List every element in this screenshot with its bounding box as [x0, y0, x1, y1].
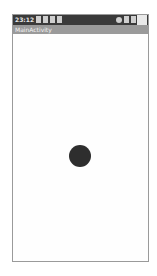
system-icons — [116, 16, 136, 24]
menu-grid-icon[interactable] — [137, 15, 147, 25]
app-title: MainActivity — [15, 26, 52, 33]
notification-icons — [36, 16, 62, 24]
sd-card-icon — [36, 16, 41, 23]
status-bar: 23:12 — [13, 15, 148, 25]
circle-shape[interactable] — [69, 145, 91, 167]
image-icon — [50, 16, 55, 23]
alarm-icon — [116, 17, 122, 23]
usb-icon — [43, 16, 48, 23]
wifi-icon — [57, 16, 62, 23]
phone-screen: 23:12 MainActivity — [12, 14, 149, 262]
main-content[interactable] — [13, 34, 148, 261]
battery-icon — [131, 16, 136, 23]
signal-icon — [124, 16, 129, 23]
status-time: 23:12 — [15, 16, 34, 24]
action-bar: MainActivity — [13, 25, 148, 34]
